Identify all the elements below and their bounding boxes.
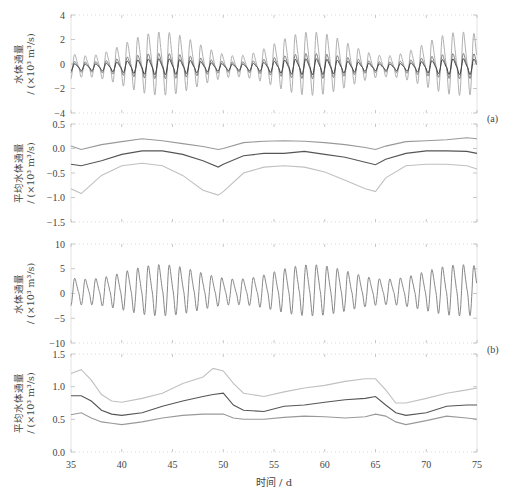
panel-b-top: −10−50510水体通量/ (×10³ m³/s) (13, 239, 477, 349)
x-tick-label: 50 (218, 459, 228, 470)
panel-a-bottom: −1.5−1.0−0.50.00.5平均水体通量/ (×10³ m³/s) (13, 119, 477, 228)
y-tick-label: 1.0 (53, 381, 66, 392)
y-tick-label: 0 (60, 288, 65, 299)
panel-a-label: (a) (487, 113, 498, 125)
panel-b-bottom: 0.00.51.01.5平均水体通量/ (×10³ m³/s) (13, 349, 477, 458)
y-axis-label: 平均水体通量 (13, 373, 24, 433)
y-tick-label: 10 (55, 239, 65, 250)
series-upper (71, 32, 477, 96)
series-mean (71, 393, 477, 415)
x-tick-label: 45 (168, 459, 178, 470)
panel-b-label: (b) (487, 344, 499, 356)
y-axis-unit: / (×10³ m³/s) (25, 372, 36, 433)
x-tick-label: 70 (421, 459, 431, 470)
y-axis-unit: / (×10³ m³/s) (25, 142, 36, 203)
y-axis-unit: / (×10³ m³/s) (25, 33, 36, 94)
y-tick-label: 2 (60, 34, 65, 45)
y-tick-label: 0 (60, 59, 65, 70)
x-tick-label: 75 (472, 459, 482, 470)
y-tick-label: 0.0 (53, 143, 66, 154)
chart-figure: −4−2024水体通量/ (×10³ m³/s)−1.5−1.0−0.50.00… (0, 0, 512, 496)
y-tick-label: −1.5 (47, 217, 65, 228)
y-axis-label: 水体通量 (13, 274, 24, 314)
y-tick-label: −0.5 (47, 168, 65, 179)
y-tick-label: 5 (60, 263, 65, 274)
y-tick-label: 0.5 (53, 119, 66, 130)
panel-a-top: −4−2024水体通量/ (×10³ m³/s) (13, 10, 477, 119)
y-axis-label: 水体通量 (13, 44, 24, 84)
x-tick-label: 65 (371, 459, 381, 470)
y-tick-label: −1.0 (47, 192, 65, 203)
x-tick-label: 35 (66, 459, 76, 470)
y-tick-label: 0.5 (53, 414, 66, 425)
x-tick-label: 40 (117, 459, 127, 470)
y-axis-unit: / (×10³ m³/s) (25, 263, 36, 324)
x-axis-label: 时间 / d (256, 476, 293, 488)
series-upper (71, 368, 477, 403)
y-tick-label: −4 (54, 108, 65, 119)
series-flux (71, 265, 477, 316)
y-tick-label: 0.0 (53, 447, 66, 458)
y-tick-label: −10 (49, 338, 65, 349)
y-tick-label: −2 (54, 83, 65, 94)
series-lower (71, 163, 477, 195)
y-tick-label: −5 (54, 313, 65, 324)
x-tick-label: 60 (320, 459, 330, 470)
y-tick-label: 1.5 (53, 349, 66, 360)
x-tick-label: 55 (269, 459, 279, 470)
series-upper (71, 138, 477, 150)
y-tick-label: 4 (60, 10, 65, 21)
y-axis-label: 平均水体通量 (13, 143, 24, 203)
